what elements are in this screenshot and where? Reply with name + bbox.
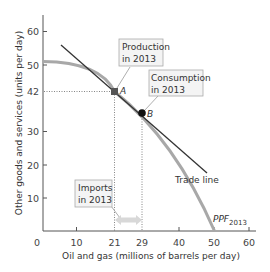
x-ticks	[77, 227, 250, 231]
imports-line1: Imports	[78, 183, 113, 193]
production-line2: in 2013	[122, 54, 156, 64]
ppf-label-main: PPF	[213, 214, 230, 224]
ppf-trade-chart: 60 50 42 30 20 10 0 10 21 29 40 50 60 Ot…	[0, 0, 270, 272]
consumption-line1: Consumption	[151, 73, 211, 83]
trade-line-label: Trade line	[174, 175, 219, 185]
production-leader	[117, 67, 130, 88]
y-tick-20: 20	[27, 160, 39, 171]
point-b-label: B	[147, 109, 153, 119]
imports-line2: in 2013	[78, 195, 112, 205]
y-tick-42: 42	[27, 86, 39, 97]
x-tick-0: 0	[34, 237, 40, 248]
point-a-label: A	[119, 86, 126, 96]
production-line1: Production	[122, 42, 170, 52]
x-tick-60: 60	[243, 237, 255, 248]
x-tick-29: 29	[136, 237, 148, 248]
x-axis-title: Oil and gas (millions of barrels per day…	[62, 251, 240, 261]
y-axis-title: Other goods and services (units per day)	[14, 31, 24, 215]
x-tick-21: 21	[108, 237, 120, 248]
x-tick-40: 40	[173, 237, 185, 248]
x-tick-10: 10	[70, 237, 82, 248]
point-a-marker	[111, 88, 118, 95]
y-ticks	[43, 32, 47, 199]
x-tick-50: 50	[208, 237, 220, 248]
consumption-line2: in 2013	[151, 85, 185, 95]
y-tick-50: 50	[27, 60, 39, 71]
consumption-leader	[145, 96, 158, 110]
y-tick-10: 10	[27, 193, 39, 204]
y-tick-30: 30	[27, 126, 39, 137]
ppf-label-sub: 2013	[229, 219, 247, 227]
point-b-marker	[138, 109, 146, 117]
ppf-label: PPF2013	[213, 214, 247, 227]
imports-leader	[111, 206, 120, 218]
y-tick-60: 60	[27, 26, 39, 37]
